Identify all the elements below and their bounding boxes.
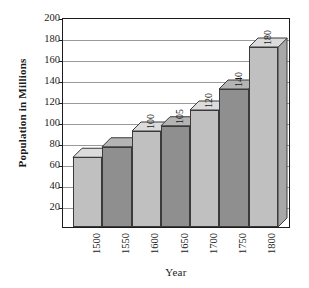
- y-tick-label: 180: [30, 34, 60, 44]
- bar-front-face: [190, 110, 219, 227]
- y-tick-label: 80: [30, 139, 60, 149]
- y-tick-label: 20: [30, 202, 60, 212]
- bar-value-label: 105: [175, 109, 185, 124]
- x-axis-title: Year: [62, 266, 290, 278]
- bar-column[interactable]: [73, 17, 102, 227]
- bar-front-face: [73, 157, 102, 227]
- y-axis-title: Population in Millions: [14, 0, 30, 228]
- x-tick-label: 1600: [149, 233, 160, 254]
- y-axis-tick-labels: 20406080100120140160180200: [30, 18, 60, 228]
- y-tick-label: 120: [30, 97, 60, 107]
- x-tick-label: 1500: [91, 233, 102, 254]
- bars-layer: 100105120140180: [63, 19, 289, 227]
- x-tick-label: 1700: [208, 233, 219, 254]
- plot-area: 100105120140180: [62, 18, 290, 228]
- bar-front-face: [219, 89, 248, 227]
- bar-front-face: [132, 131, 161, 227]
- bar-value-label: 180: [263, 30, 273, 45]
- bar-front-face: [161, 126, 190, 227]
- bar-column[interactable]: [249, 17, 278, 227]
- bar-column[interactable]: [219, 17, 248, 227]
- y-tick-label: 200: [30, 13, 60, 23]
- bar-value-label: 100: [146, 114, 156, 129]
- population-bar-chart: Population in Millions 20406080100120140…: [0, 0, 309, 288]
- bar-value-label: 140: [234, 72, 244, 87]
- y-tick-label: 60: [30, 160, 60, 170]
- x-tick-label: 1650: [179, 233, 190, 254]
- bar-column[interactable]: [102, 17, 131, 227]
- bar-column[interactable]: [190, 17, 219, 227]
- y-tick-label: 40: [30, 181, 60, 191]
- x-tick-label: 1550: [120, 233, 131, 254]
- bar-front-face: [249, 47, 278, 227]
- y-tick-label: 140: [30, 76, 60, 86]
- x-axis-tick-labels: 1500155016001650170017501800: [62, 230, 290, 270]
- x-tick-label: 1800: [266, 233, 277, 254]
- y-tick-label: 100: [30, 118, 60, 128]
- bar-front-face: [102, 147, 131, 227]
- y-tick-label: 160: [30, 55, 60, 65]
- bar-value-label: 120: [204, 93, 214, 108]
- x-tick-label: 1750: [237, 233, 248, 254]
